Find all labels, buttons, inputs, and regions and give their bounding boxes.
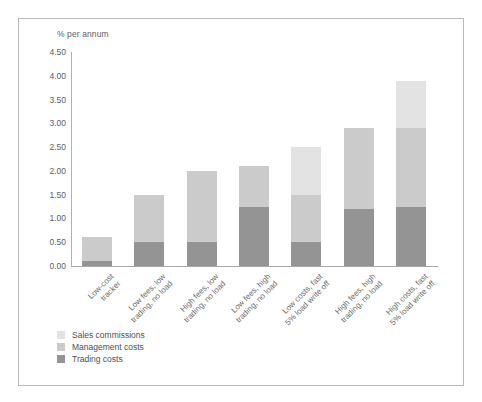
legend-item: Management costs — [57, 341, 145, 352]
bar-stack — [82, 237, 112, 266]
legend-label: Trading costs — [72, 354, 123, 364]
bar-segment-trading-costs — [82, 261, 112, 266]
y-axis-tick-label: 1.00 — [49, 213, 66, 223]
plot-area — [71, 52, 437, 266]
y-axis-tick-label: 1.50 — [49, 190, 66, 200]
y-axis-tick-label: 0.50 — [49, 237, 66, 247]
bar-segment-trading-costs — [291, 242, 321, 266]
legend-item: Sales commissions — [57, 329, 145, 340]
y-axis-tick-label: 3.00 — [49, 118, 66, 128]
bar-segment-trading-costs — [134, 242, 164, 266]
bar-segment-management-costs — [187, 171, 217, 242]
bar-segment-management-costs — [344, 128, 374, 209]
bar-stack — [187, 171, 217, 266]
bar-stack — [396, 81, 426, 266]
x-axis-line — [71, 266, 438, 267]
bar-segment-sales-commissions — [396, 81, 426, 129]
legend-swatch-icon — [57, 343, 65, 351]
bar-stack — [134, 195, 164, 266]
bar-stack — [344, 128, 374, 266]
bar-segment-management-costs — [396, 128, 426, 206]
bar-stack — [291, 147, 321, 266]
legend-label: Sales commissions — [72, 330, 145, 340]
y-axis-tick-label: 3.50 — [49, 95, 66, 105]
bar-segment-sales-commissions — [291, 147, 321, 195]
bar-segment-management-costs — [239, 166, 269, 206]
y-axis-tick-label: 4.00 — [49, 71, 66, 81]
y-axis-tick-label: 4.50 — [49, 47, 66, 57]
y-axis-tick-label: 2.50 — [49, 142, 66, 152]
legend-item: Trading costs — [57, 353, 145, 364]
bar-segment-trading-costs — [239, 207, 269, 266]
bar-segment-management-costs — [134, 195, 164, 243]
legend-swatch-icon — [57, 355, 65, 363]
chart-legend: Sales commissionsManagement costsTrading… — [57, 329, 145, 365]
bar-segment-trading-costs — [344, 209, 374, 266]
bar-segment-trading-costs — [396, 207, 426, 266]
legend-swatch-icon — [57, 331, 65, 339]
y-axis-tick-label: 2.00 — [49, 166, 66, 176]
chart-figure: % per annum 4.504.003.503.002.502.001.50… — [18, 18, 464, 386]
bar-segment-management-costs — [291, 195, 321, 243]
bar-segment-trading-costs — [187, 242, 217, 266]
y-axis-tick-label: 0.00 — [49, 261, 66, 271]
bar-segment-management-costs — [82, 237, 112, 261]
legend-label: Management costs — [72, 342, 144, 352]
bar-stack — [239, 166, 269, 266]
